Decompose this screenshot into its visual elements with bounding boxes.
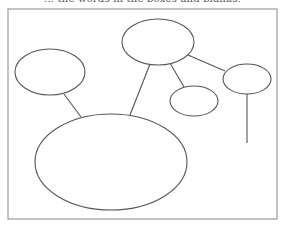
bubble-big-bottom — [35, 114, 187, 210]
bubble-right — [223, 64, 271, 94]
connector-lines — [64, 55, 247, 143]
bubble-top-center — [122, 19, 194, 65]
connector-top-center-to-big-bottom — [130, 64, 150, 115]
diagram-frame — [8, 9, 277, 219]
diagram-bubbles — [15, 19, 271, 210]
connector-top-center-to-right — [188, 55, 225, 71]
bubble-left — [15, 49, 85, 95]
bubble-small-center-right — [170, 86, 218, 116]
connector-left-to-big-bottom — [64, 94, 81, 117]
web-diagram — [0, 0, 285, 227]
connector-top-center-to-small-center-right — [170, 63, 184, 87]
